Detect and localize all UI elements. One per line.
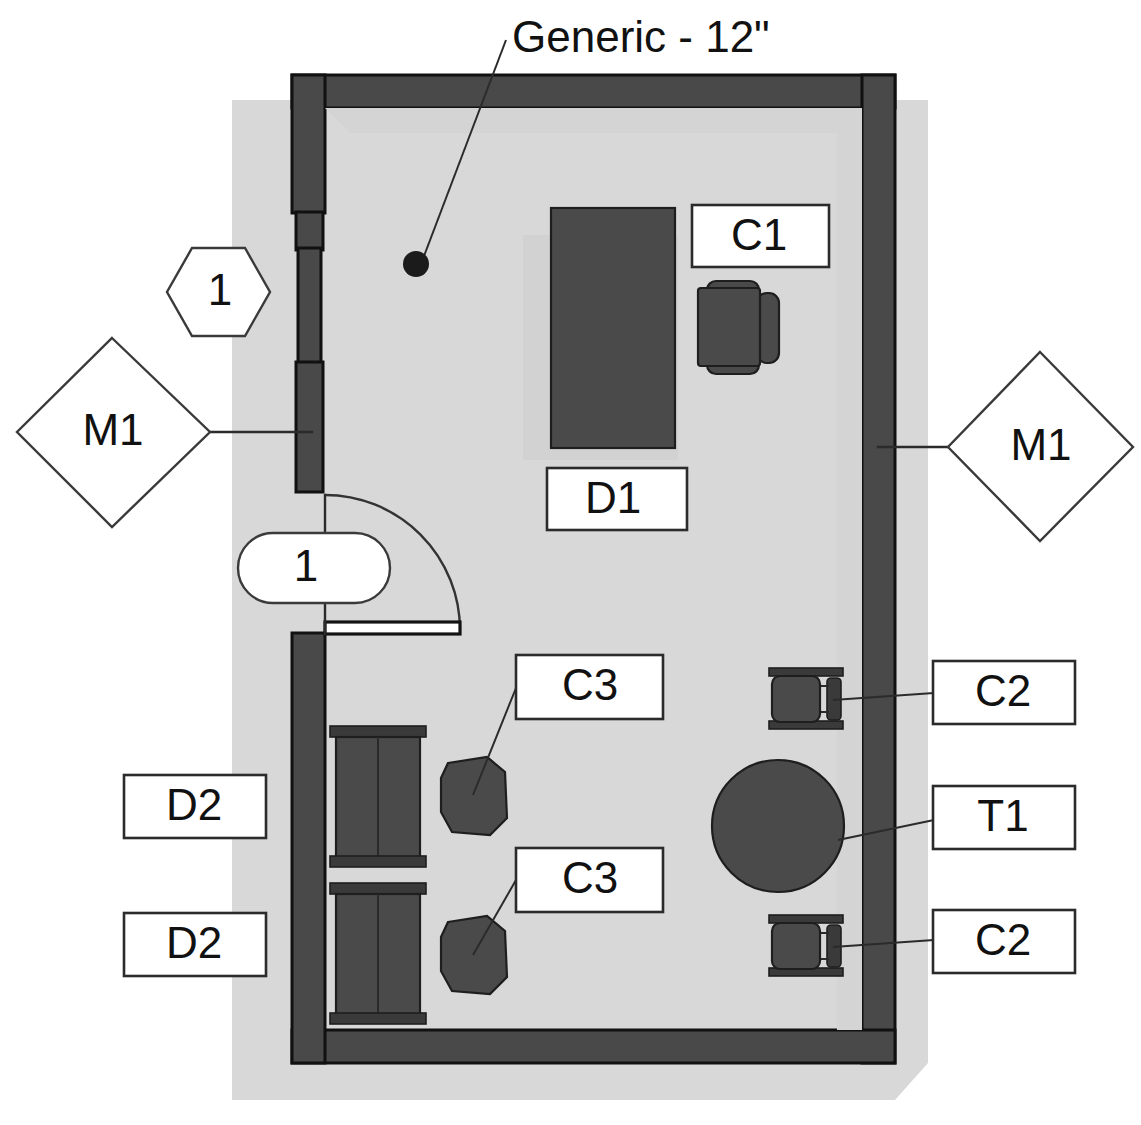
wall-left-window bbox=[298, 248, 321, 366]
floor-plan-canvas: Generic - 12" 1 M1 M1 1 C1 bbox=[0, 0, 1141, 1125]
chair-c2-lower-seat bbox=[772, 923, 820, 969]
callout-c3-lower-label: C3 bbox=[562, 853, 618, 902]
chair-c2-upper-seat bbox=[772, 676, 820, 722]
callout-c2-lower-label: C2 bbox=[975, 915, 1031, 964]
wall-left-upper bbox=[292, 75, 325, 213]
callout-d2-lower[interactable]: D2 bbox=[124, 913, 266, 976]
callout-m1-right[interactable]: M1 bbox=[948, 352, 1133, 541]
cabinet-d2-upper-bottom-bar bbox=[330, 856, 426, 867]
callout-d2-lower-label: D2 bbox=[166, 918, 222, 967]
callout-door-tag[interactable]: 1 bbox=[238, 533, 390, 603]
callout-d2-upper[interactable]: D2 bbox=[124, 775, 266, 838]
chair-c2-lower-armrest-top bbox=[769, 915, 843, 923]
callout-t1-label: T1 bbox=[977, 791, 1028, 840]
callout-c1-label: C1 bbox=[731, 210, 787, 259]
chair-c3-upper-body bbox=[441, 757, 507, 835]
stadium-label: 1 bbox=[294, 541, 318, 590]
callout-c3-upper[interactable]: C3 bbox=[516, 655, 663, 719]
callout-d2-upper-label: D2 bbox=[166, 780, 222, 829]
table-t1 bbox=[712, 760, 844, 892]
callout-c2-upper[interactable]: C2 bbox=[933, 661, 1075, 724]
cabinet-d2-lower bbox=[330, 883, 426, 1024]
chair-c1-seat bbox=[698, 288, 760, 366]
wall-left-lower bbox=[292, 633, 325, 1063]
chair-c2-upper-armrest-top bbox=[769, 668, 843, 676]
cabinet-d2-lower-bottom-bar bbox=[330, 1013, 426, 1024]
wall-left-jamb-lower bbox=[296, 362, 323, 492]
leader-title-dot bbox=[403, 251, 429, 277]
title-text: Generic - 12" bbox=[512, 12, 770, 61]
diamond-right-label: M1 bbox=[1010, 420, 1071, 469]
chair-c1 bbox=[698, 281, 779, 374]
callout-title[interactable]: Generic - 12" bbox=[512, 12, 770, 61]
callout-c3-upper-label: C3 bbox=[562, 660, 618, 709]
wall-left-jamb-upper bbox=[296, 212, 323, 250]
cabinet-d2-upper-top-bar bbox=[330, 726, 426, 737]
desk-d1-body bbox=[551, 208, 675, 448]
callout-t1[interactable]: T1 bbox=[933, 786, 1075, 849]
callout-c1[interactable]: C1 bbox=[692, 205, 829, 267]
cabinet-d2-upper bbox=[330, 726, 426, 867]
door-leaf bbox=[325, 622, 460, 634]
wall-top bbox=[292, 75, 895, 108]
callout-d1[interactable]: D1 bbox=[547, 468, 687, 530]
diamond-left-label: M1 bbox=[82, 405, 143, 454]
callout-c3-lower[interactable]: C3 bbox=[516, 848, 663, 912]
callout-c2-lower[interactable]: C2 bbox=[933, 910, 1075, 973]
floor-plan-drawing: Generic - 12" 1 M1 M1 1 C1 bbox=[0, 0, 1141, 1125]
table-t1-top bbox=[712, 760, 844, 892]
wall-bottom bbox=[292, 1030, 895, 1063]
hexagon-label: 1 bbox=[208, 265, 232, 314]
cabinet-d2-lower-top-bar bbox=[330, 883, 426, 894]
callout-m1-left[interactable]: M1 bbox=[17, 338, 210, 527]
wall-right bbox=[862, 75, 895, 1063]
chair-c3-upper bbox=[441, 757, 507, 835]
desk-d1 bbox=[523, 208, 678, 460]
callout-d1-label: D1 bbox=[585, 473, 641, 522]
callout-c2-upper-label: C2 bbox=[975, 666, 1031, 715]
